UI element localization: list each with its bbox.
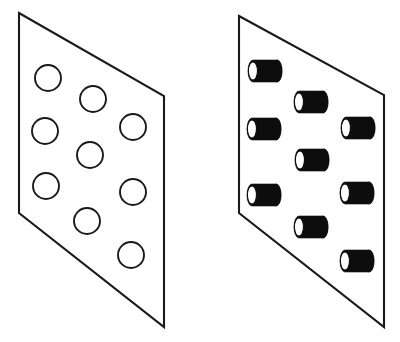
cylinder-open-end (294, 218, 303, 236)
cylinder-open-end (340, 184, 349, 202)
cylinder-open-end (295, 151, 304, 169)
hole-circle (77, 142, 103, 168)
cylinder-peg (295, 149, 329, 171)
cylinder-peg (247, 184, 281, 206)
hole-circle (35, 65, 61, 91)
cylinder-far-end (364, 182, 374, 204)
cylinder-far-end (272, 60, 282, 82)
cylinder-open-end (341, 119, 350, 137)
cylinder-open-end (294, 93, 303, 111)
cylinder-peg (247, 118, 281, 140)
hole-circle (80, 86, 106, 112)
cylinder-open-end (340, 252, 349, 270)
cylinder-far-end (364, 250, 374, 272)
figure-canvas (0, 0, 400, 342)
cylinder-peg (294, 216, 328, 238)
hole-circle (32, 118, 58, 144)
cylinder-peg (340, 182, 374, 204)
cylinder-peg (294, 91, 328, 113)
cylinder-far-end (318, 91, 328, 113)
hole-circle (120, 179, 146, 205)
cylinder-peg (340, 250, 374, 272)
cylinder-far-end (271, 118, 281, 140)
panel-with-cylinders (239, 16, 384, 327)
hole-circle (118, 242, 144, 268)
cylinder-open-end (247, 120, 256, 138)
panel-with-holes-outline (19, 13, 164, 327)
cylinder-open-end (247, 186, 256, 204)
cylinder-far-end (318, 216, 328, 238)
cylinder-far-end (319, 149, 329, 171)
hole-circle (120, 114, 146, 140)
cylinder-far-end (271, 184, 281, 206)
cylinder-open-end (248, 62, 257, 80)
panel-with-holes (19, 13, 164, 327)
cylinder-far-end (365, 117, 375, 139)
cylinder-peg (248, 60, 282, 82)
hole-circle (33, 173, 59, 199)
figure-root (0, 0, 400, 342)
cylinder-peg (341, 117, 375, 139)
hole-circle (74, 208, 100, 234)
